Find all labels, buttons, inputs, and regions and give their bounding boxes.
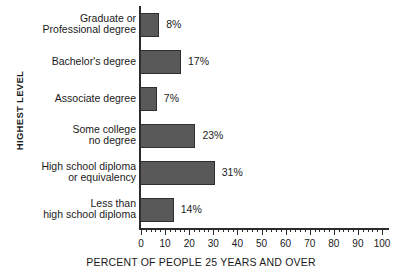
x-axis-major-tick [141, 228, 142, 235]
x-axis-minor-tick [218, 228, 219, 232]
x-axis-minor-tick [228, 228, 229, 232]
x-axis-major-tick [262, 228, 263, 235]
bar-value-label: 17% [188, 55, 209, 67]
x-axis-minor-tick [180, 228, 181, 232]
bar [140, 124, 195, 148]
x-axis-major-tick [382, 228, 383, 235]
x-axis-tick-label: 100 [374, 238, 391, 249]
x-axis-title: PERCENT OF PEOPLE 25 YEARS AND OVER [0, 256, 402, 268]
bar [140, 198, 174, 222]
x-axis-minor-tick [155, 228, 156, 232]
x-axis-major-tick [189, 228, 190, 235]
x-axis-minor-tick [353, 228, 354, 232]
plot-area: 8%17%7%23%31%14% [139, 6, 384, 228]
bar-chart: HIGHEST LEVEL Graduate orProfessional de… [0, 0, 402, 278]
x-axis-minor-tick [343, 228, 344, 232]
x-axis-tick-label: 80 [328, 238, 339, 249]
x-axis-minor-tick [276, 228, 277, 232]
x-axis-tick-labels: 0102030405060708090100 [139, 238, 389, 252]
x-axis-tick-label: 90 [352, 238, 363, 249]
x-axis-minor-tick [247, 228, 248, 232]
x-axis-minor-tick [175, 228, 176, 232]
x-axis-tick-label: 0 [138, 238, 144, 249]
x-axis-minor-tick [199, 228, 200, 232]
x-axis-minor-tick [242, 228, 243, 232]
x-axis-minor-tick [281, 228, 282, 232]
x-axis-minor-tick [295, 228, 296, 232]
x-axis-minor-tick [315, 228, 316, 232]
x-axis-minor-tick [363, 228, 364, 232]
bar-value-label: 7% [164, 92, 179, 104]
x-axis-minor-tick [184, 228, 185, 232]
x-axis-minor-tick [339, 228, 340, 232]
bar [140, 13, 159, 37]
bar-value-label: 14% [181, 203, 202, 215]
category-label: Less thanhigh school diploma [18, 198, 136, 221]
bar-value-label: 31% [222, 166, 243, 178]
x-axis-minor-tick [300, 228, 301, 232]
category-label-line: or equivalency [18, 172, 136, 184]
x-axis-minor-tick [319, 228, 320, 232]
bar [140, 87, 157, 111]
category-label: Graduate orProfessional degree [18, 13, 136, 36]
x-axis-minor-tick [252, 228, 253, 232]
x-axis-minor-tick [348, 228, 349, 232]
x-axis-tick-label: 30 [208, 238, 219, 249]
x-axis-minor-tick [257, 228, 258, 232]
x-axis-tick-label: 10 [160, 238, 171, 249]
x-axis-minor-tick [271, 228, 272, 232]
x-axis-ticks [139, 228, 389, 238]
x-axis-major-tick [310, 228, 311, 235]
x-axis-minor-tick [223, 228, 224, 232]
x-axis-minor-tick [146, 228, 147, 232]
category-label: Some collegeno degree [18, 124, 136, 147]
x-axis-tick-label: 20 [184, 238, 195, 249]
x-axis-minor-tick [204, 228, 205, 232]
x-axis-major-tick [237, 228, 238, 235]
x-axis-major-tick [358, 228, 359, 235]
x-axis-minor-tick [377, 228, 378, 232]
category-label-line: Professional degree [18, 24, 136, 36]
category-label-column: Graduate orProfessional degreeBachelor's… [18, 6, 136, 228]
x-axis-minor-tick [233, 228, 234, 232]
y-axis-line [139, 6, 141, 228]
x-axis-minor-tick [194, 228, 195, 232]
x-axis-minor-tick [368, 228, 369, 232]
x-axis-major-tick [213, 228, 214, 235]
x-axis-minor-tick [266, 228, 267, 232]
x-axis-major-tick [334, 228, 335, 235]
x-axis-minor-tick [290, 228, 291, 232]
x-axis-tick-label: 60 [280, 238, 291, 249]
category-label: High school diplomaor equivalency [18, 161, 136, 184]
x-axis-minor-tick [151, 228, 152, 232]
bar-value-label: 23% [202, 129, 223, 141]
category-label-line: high school diploma [18, 209, 136, 221]
x-axis-minor-tick [305, 228, 306, 232]
x-axis-minor-tick [324, 228, 325, 232]
x-axis-minor-tick [329, 228, 330, 232]
x-axis-major-tick [286, 228, 287, 235]
x-axis-minor-tick [160, 228, 161, 232]
category-label-line: Associate degree [18, 93, 136, 105]
bar [140, 161, 215, 185]
category-label-line: Bachelor's degree [18, 56, 136, 68]
x-axis-tick-label: 70 [304, 238, 315, 249]
x-axis-minor-tick [372, 228, 373, 232]
category-label-line: no degree [18, 135, 136, 147]
category-label: Associate degree [18, 93, 136, 105]
x-axis-minor-tick [170, 228, 171, 232]
bar [140, 50, 181, 74]
category-label: Bachelor's degree [18, 56, 136, 68]
x-axis-tick-label: 50 [256, 238, 267, 249]
x-axis-minor-tick [208, 228, 209, 232]
x-axis-tick-label: 40 [232, 238, 243, 249]
bar-value-label: 8% [166, 18, 181, 30]
x-axis-major-tick [165, 228, 166, 235]
